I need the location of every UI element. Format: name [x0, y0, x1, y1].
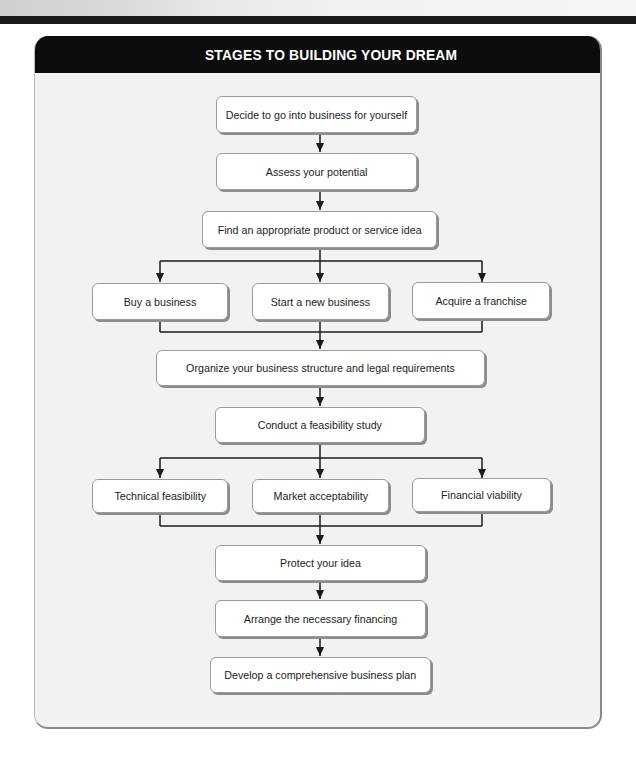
check-technical: Technical feasibility	[92, 479, 228, 513]
step-assess-label: Assess your potential	[266, 166, 368, 178]
option-acquire: Acquire a franchise	[412, 282, 550, 319]
check-market: Market acceptability	[252, 479, 389, 513]
option-start: Start a new business	[252, 283, 389, 320]
check-market-label: Market acceptability	[273, 490, 368, 502]
step-organize: Organize your business structure and leg…	[156, 350, 485, 386]
step-decide: Decide to go into business for yourself	[216, 96, 417, 133]
option-buy-label: Buy a business	[124, 296, 197, 308]
step-decide-label: Decide to go into business for yourself	[226, 109, 407, 121]
step-develop: Develop a comprehensive business plan	[210, 657, 431, 693]
step-find-label: Find an appropriate product or service i…	[218, 224, 422, 236]
step-protect: Protect your idea	[215, 545, 426, 581]
step-develop-label: Develop a comprehensive business plan	[224, 669, 416, 681]
option-acquire-label: Acquire a franchise	[435, 295, 527, 307]
step-conduct-label: Conduct a feasibility study	[258, 419, 382, 431]
step-arrange-label: Arrange the necessary financing	[244, 613, 397, 625]
flowchart: Decide to go into business for yourself …	[0, 0, 636, 771]
step-protect-label: Protect your idea	[280, 557, 361, 569]
check-financial: Financial viability	[412, 478, 551, 512]
option-start-label: Start a new business	[271, 296, 370, 308]
check-technical-label: Technical feasibility	[114, 490, 206, 502]
page: STAGES TO BUILDING YOUR DREAM	[0, 0, 636, 771]
step-assess: Assess your potential	[216, 153, 417, 190]
option-buy: Buy a business	[92, 283, 228, 320]
step-arrange: Arrange the necessary financing	[215, 600, 426, 637]
step-find: Find an appropriate product or service i…	[202, 211, 437, 248]
step-conduct: Conduct a feasibility study	[215, 407, 425, 443]
check-financial-label: Financial viability	[441, 489, 522, 501]
step-organize-label: Organize your business structure and leg…	[186, 362, 455, 374]
